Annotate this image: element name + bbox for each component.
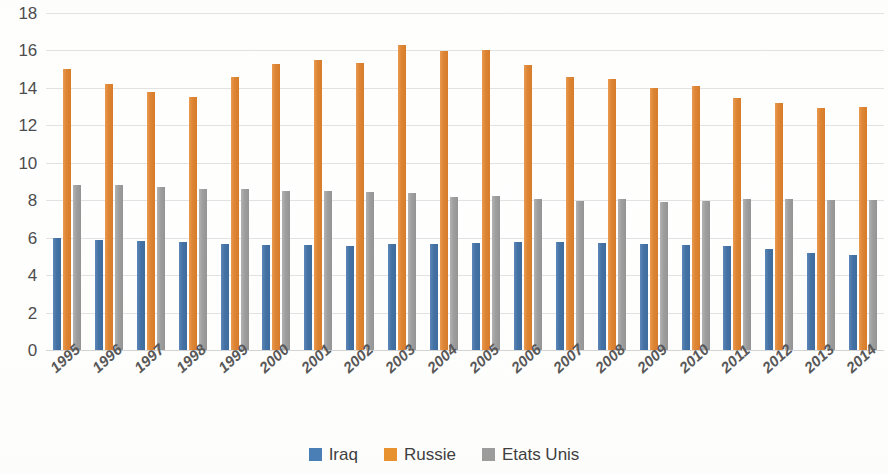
bar-group xyxy=(507,13,549,350)
x-axis-slot: 1996 xyxy=(88,352,130,437)
x-axis-slot: 2007 xyxy=(549,352,591,437)
y-axis-tick-label: 10 xyxy=(18,154,37,171)
y-axis-tick-label: 16 xyxy=(18,42,37,59)
x-axis-slot: 2006 xyxy=(507,352,549,437)
plot-area xyxy=(46,13,884,350)
bar-group xyxy=(675,13,717,350)
bar-group xyxy=(88,13,130,350)
bar-etats xyxy=(241,189,249,350)
bar-etats xyxy=(576,201,584,350)
bar-group xyxy=(549,13,591,350)
bar-iraq xyxy=(514,242,522,350)
bar-russie xyxy=(566,77,574,350)
x-axis-slot: 1995 xyxy=(46,352,88,437)
legend-label: Russie xyxy=(404,446,456,463)
bar-group xyxy=(423,13,465,350)
x-axis-slot: 2009 xyxy=(633,352,675,437)
bar-etats xyxy=(618,199,626,350)
legend-item-etats[interactable]: Etats Unis xyxy=(482,446,579,463)
bar-etats xyxy=(827,200,835,350)
bar-group xyxy=(214,13,256,350)
bar-russie xyxy=(314,60,322,350)
bar-etats xyxy=(743,199,751,350)
bar-group xyxy=(339,13,381,350)
y-axis-tick-label: 0 xyxy=(28,342,37,359)
bar-etats xyxy=(492,196,500,350)
bar-etats xyxy=(534,199,542,350)
bar-russie xyxy=(482,50,490,350)
legend-label: Iraq xyxy=(329,446,358,463)
bar-russie xyxy=(272,64,280,350)
bar-group xyxy=(297,13,339,350)
bar-iraq xyxy=(723,246,731,350)
bar-group xyxy=(842,13,884,350)
legend-swatch-icon xyxy=(309,448,322,461)
bar-group xyxy=(172,13,214,350)
bar-iraq xyxy=(346,246,354,350)
bar-iraq xyxy=(179,242,187,350)
legend-swatch-icon xyxy=(482,448,495,461)
bar-etats xyxy=(115,185,123,350)
legend-item-russie[interactable]: Russie xyxy=(384,446,456,463)
bar-iraq xyxy=(388,244,396,350)
legend-swatch-icon xyxy=(384,448,397,461)
bar-iraq xyxy=(682,245,690,350)
bar-iraq xyxy=(640,244,648,350)
legend-item-iraq[interactable]: Iraq xyxy=(309,446,358,463)
chart-legend: IraqRussieEtats Unis xyxy=(0,446,888,463)
x-axis: 1995199619971998199920002001200220032004… xyxy=(46,352,884,437)
x-axis-slot: 2003 xyxy=(381,352,423,437)
bar-etats xyxy=(869,200,877,350)
x-axis-slot: 1998 xyxy=(172,352,214,437)
bar-group xyxy=(591,13,633,350)
bar-iraq xyxy=(849,255,857,350)
bar-iraq xyxy=(304,245,312,350)
x-axis-slot: 2013 xyxy=(800,352,842,437)
x-axis-slot: 2001 xyxy=(297,352,339,437)
y-axis-tick-label: 12 xyxy=(18,117,37,134)
bar-iraq xyxy=(53,238,61,350)
bar-russie xyxy=(189,97,197,350)
bar-group xyxy=(800,13,842,350)
gridline xyxy=(46,350,884,351)
bar-iraq xyxy=(95,240,103,350)
bar-etats xyxy=(450,197,458,350)
bar-group xyxy=(758,13,800,350)
bar-russie xyxy=(608,79,616,350)
x-axis-slot: 2004 xyxy=(423,352,465,437)
bar-etats xyxy=(324,191,332,350)
y-axis: 181614121086420 xyxy=(0,0,46,363)
y-axis-tick-label: 8 xyxy=(28,192,37,209)
bar-etats xyxy=(73,185,81,350)
bar-group xyxy=(46,13,88,350)
x-axis-slot: 2012 xyxy=(758,352,800,437)
bar-group xyxy=(381,13,423,350)
bar-iraq xyxy=(765,249,773,350)
y-axis-tick-label: 4 xyxy=(28,267,37,284)
bar-russie xyxy=(859,107,867,350)
x-axis-slot: 2008 xyxy=(591,352,633,437)
bar-group xyxy=(130,13,172,350)
bar-iraq xyxy=(598,243,606,350)
bar-russie xyxy=(398,45,406,350)
bar-russie xyxy=(105,84,113,350)
bar-etats xyxy=(785,199,793,350)
x-axis-slot: 1999 xyxy=(214,352,256,437)
bar-russie xyxy=(147,92,155,350)
bar-russie xyxy=(692,86,700,350)
bar-iraq xyxy=(221,244,229,350)
bar-russie xyxy=(775,103,783,350)
bar-russie xyxy=(733,98,741,350)
x-axis-slot: 2010 xyxy=(675,352,717,437)
x-axis-slot: 2011 xyxy=(717,352,759,437)
bar-iraq xyxy=(472,243,480,350)
bar-russie xyxy=(524,65,532,350)
y-axis-tick-label: 14 xyxy=(18,79,37,96)
x-axis-slot: 1997 xyxy=(130,352,172,437)
bar-etats xyxy=(157,187,165,350)
bar-russie xyxy=(63,69,71,350)
bar-etats xyxy=(199,189,207,350)
bar-etats xyxy=(408,193,416,350)
y-axis-tick-label: 18 xyxy=(18,5,37,22)
bar-etats xyxy=(366,192,374,350)
